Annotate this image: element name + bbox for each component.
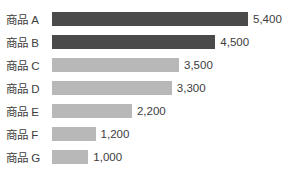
bar-track: 2,200 [52,99,303,122]
chart-row: 商品 A 5,400 [0,7,303,30]
category-label: 商品 B [0,34,52,50]
category-label: 商品 F [0,126,52,142]
chart-row: 商品 E 2,200 [0,99,303,122]
bar-track: 3,300 [52,76,303,99]
chart-row: 商品 F 1,200 [0,122,303,145]
chart-row: 商品 D 3,300 [0,76,303,99]
chart-row: 商品 C 3,500 [0,53,303,76]
bar-track: 4,500 [52,30,303,53]
category-label: 商品 A [0,11,52,27]
bar-商品-a [52,12,248,26]
category-label: 商品 C [0,57,52,73]
horizontal-bar-chart: 商品 A 5,400 商品 B 4,500 商品 C 3,500 商品 D 3,… [0,0,303,176]
value-label: 2,200 [137,105,166,117]
value-label: 1,200 [101,128,130,140]
bar-商品-g [52,150,88,164]
chart-row: 商品 G 1,000 [0,145,303,168]
bar-track: 1,000 [52,145,303,168]
category-label: 商品 D [0,80,52,96]
bar-track: 3,500 [52,53,303,76]
value-label: 3,300 [177,82,206,94]
bar-商品-b [52,35,215,49]
bar-track: 5,400 [52,7,303,30]
category-label: 商品 E [0,103,52,119]
category-label: 商品 G [0,149,52,165]
chart-row: 商品 B 4,500 [0,30,303,53]
bar-track: 1,200 [52,122,303,145]
bar-商品-f [52,127,96,141]
bar-商品-d [52,81,172,95]
value-label: 1,000 [93,151,122,163]
value-label: 3,500 [184,59,213,71]
bar-商品-c [52,58,179,72]
value-label: 5,400 [253,13,282,25]
bar-商品-e [52,104,132,118]
value-label: 4,500 [220,36,249,48]
